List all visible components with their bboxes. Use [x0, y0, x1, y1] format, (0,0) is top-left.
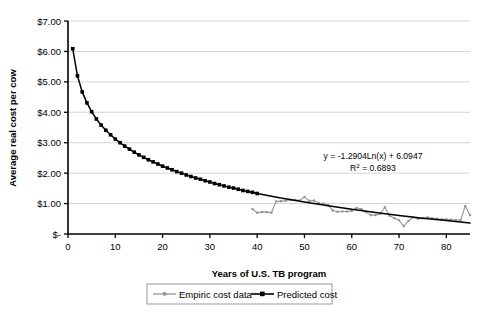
data-point — [189, 175, 193, 179]
data-point — [213, 182, 217, 186]
data-point — [104, 128, 108, 132]
data-point — [256, 212, 258, 214]
chart-svg: $-$1.00$2.00$3.00$4.00$5.00$6.00$7.00 01… — [0, 0, 478, 319]
data-point — [261, 211, 263, 213]
legend-marker-icon — [163, 292, 166, 295]
data-point — [80, 90, 84, 94]
data-point — [95, 117, 99, 121]
data-point — [459, 219, 461, 221]
data-point — [346, 210, 348, 212]
data-point — [374, 214, 376, 216]
figure-caption — [4, 306, 184, 319]
data-point — [156, 162, 160, 166]
x-tick-label: 40 — [252, 241, 263, 252]
data-point — [370, 214, 372, 216]
data-point — [71, 47, 75, 51]
y-tick-label: $2.00 — [37, 168, 61, 179]
legend-label-predicted: Predicted cost — [277, 289, 338, 300]
x-tick-label: 10 — [110, 241, 121, 252]
data-point — [208, 180, 212, 184]
y-tick-label: $3.00 — [37, 137, 61, 148]
data-point — [199, 177, 203, 181]
data-point — [393, 217, 395, 219]
regression-equation-label: y = -1.2904Ln(x) + 6.0947 — [324, 151, 423, 161]
data-point — [464, 205, 466, 207]
data-point — [227, 185, 231, 189]
x-tick-label: 20 — [157, 241, 168, 252]
data-point — [184, 173, 188, 177]
x-tick-label: 0 — [65, 241, 70, 252]
data-point — [384, 206, 386, 208]
data-point — [284, 200, 286, 202]
x-tick-label: 70 — [394, 241, 405, 252]
y-tick-label: $5.00 — [37, 76, 61, 87]
data-point — [308, 200, 310, 202]
y-tick-label: $1.00 — [37, 198, 61, 209]
data-point — [76, 74, 80, 78]
data-point — [123, 144, 127, 148]
legend-label-empiric: Empiric cost data — [179, 289, 253, 300]
data-point — [280, 200, 282, 202]
data-point — [203, 179, 207, 183]
data-point — [180, 171, 184, 175]
data-point — [151, 160, 155, 164]
x-tick-label: 50 — [299, 241, 310, 252]
data-point — [161, 164, 165, 168]
data-point — [170, 168, 174, 172]
data-point — [255, 192, 259, 196]
data-point — [332, 209, 334, 211]
chart-figure: $-$1.00$2.00$3.00$4.00$5.00$6.00$7.00 01… — [0, 0, 478, 319]
legend-marker-icon — [260, 292, 265, 297]
legend[interactable]: Empiric cost data Predicted cost — [147, 284, 338, 304]
data-point — [194, 176, 198, 180]
data-point — [128, 147, 132, 151]
x-axis-title: Years of U.S. TB program — [212, 268, 327, 279]
data-point — [241, 189, 245, 193]
data-point — [251, 191, 255, 195]
data-point — [270, 212, 272, 214]
data-point — [218, 183, 222, 187]
data-point — [251, 208, 253, 210]
y-tick-label: $4.00 — [37, 107, 61, 118]
data-point — [236, 187, 240, 191]
data-point — [275, 200, 277, 202]
data-point — [99, 123, 103, 127]
data-point — [90, 110, 94, 114]
data-point — [166, 166, 170, 170]
data-point — [313, 199, 315, 201]
data-point — [118, 141, 122, 145]
y-tick-label: $6.00 — [37, 46, 61, 57]
data-point — [132, 150, 136, 154]
data-point — [222, 184, 226, 188]
data-point — [355, 207, 357, 209]
y-tick-label: $- — [53, 229, 61, 240]
data-point — [336, 211, 338, 213]
data-point — [175, 170, 179, 174]
data-point — [109, 133, 113, 137]
data-point — [469, 214, 471, 216]
data-point — [85, 101, 89, 105]
data-point — [398, 219, 400, 221]
y-tick-label: $7.00 — [37, 16, 61, 27]
data-point — [232, 186, 236, 190]
x-tick-label: 80 — [441, 241, 452, 252]
data-point — [403, 225, 405, 227]
data-point — [147, 158, 151, 162]
data-point — [266, 211, 268, 213]
x-tick-label: 30 — [205, 241, 216, 252]
data-point — [113, 137, 117, 141]
data-point — [246, 190, 250, 194]
data-point — [142, 156, 146, 160]
x-tick-label: 60 — [346, 241, 357, 252]
y-axis-title: Average real cost per cow — [7, 69, 18, 187]
data-point — [303, 196, 305, 198]
data-point — [341, 210, 343, 212]
data-point — [407, 220, 409, 222]
data-point — [137, 153, 141, 157]
